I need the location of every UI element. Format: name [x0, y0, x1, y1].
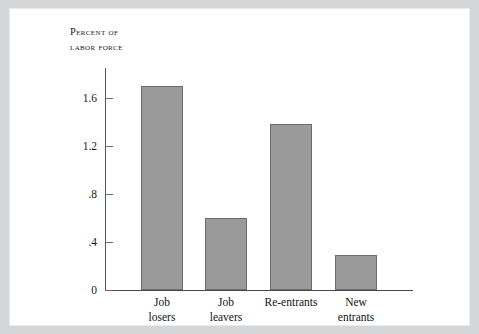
bar-re-entrants — [270, 124, 312, 290]
y-axis-tick-label: .4 — [55, 236, 97, 248]
y-axis-tick — [105, 98, 113, 99]
y-axis-tick — [105, 146, 113, 147]
plot-area: Percent of labor force 0.4.81.21.6 Job l… — [0, 0, 479, 334]
y-axis-tick — [105, 194, 113, 195]
y-axis-tick — [105, 242, 113, 243]
bar-new-entrants — [335, 255, 377, 290]
bar-job-leavers — [205, 218, 247, 290]
y-axis-line — [105, 68, 106, 291]
x-axis-label-new-entrants: New entrants — [311, 295, 401, 325]
y-axis-tick-label: 1.2 — [55, 140, 97, 152]
y-axis-tick-label: .8 — [55, 188, 97, 200]
bar-job-losers — [141, 86, 183, 290]
chart-figure: Percent of labor force 0.4.81.21.6 Job l… — [0, 0, 479, 334]
y-axis-tick-label: 1.6 — [55, 92, 97, 104]
y-axis-title: Percent of labor force — [70, 24, 270, 54]
x-axis-line — [105, 290, 413, 291]
y-axis-tick-label: 0 — [55, 284, 97, 296]
y-axis-tick — [105, 290, 113, 291]
